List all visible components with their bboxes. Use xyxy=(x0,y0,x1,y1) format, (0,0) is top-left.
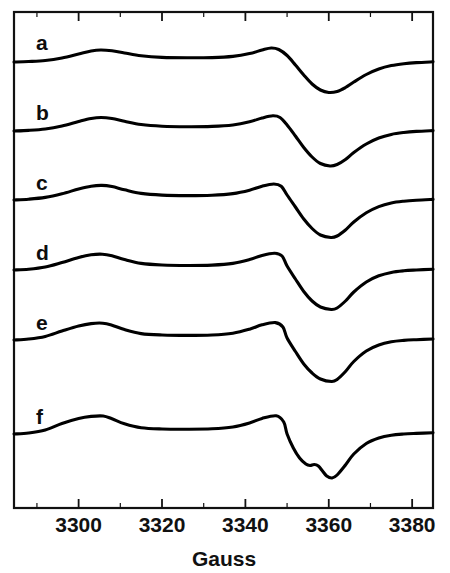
trace-label-b: b xyxy=(36,101,49,124)
trace-label-c: c xyxy=(36,171,48,194)
x-tick-label-3300: 3300 xyxy=(55,513,102,536)
plot-frame xyxy=(14,12,433,508)
spectra-traces xyxy=(14,48,433,478)
x-axis-tick-labels: 33003320334033603380 xyxy=(55,513,435,536)
epr-figure: a b c d e f 33003320334033603380 Gauss xyxy=(0,0,450,573)
trace-label-e: e xyxy=(36,311,48,334)
spectrum-trace-a xyxy=(14,48,433,93)
x-tick-label-3340: 3340 xyxy=(222,513,269,536)
spectrum-trace-e xyxy=(14,323,433,382)
spectrum-trace-f xyxy=(14,416,433,478)
plot-border xyxy=(14,12,433,508)
x-tick-label-3360: 3360 xyxy=(305,513,352,536)
spectrum-trace-b xyxy=(14,116,433,166)
x-axis-ticks xyxy=(37,12,412,508)
x-tick-label-3320: 3320 xyxy=(139,513,186,536)
trace-label-f: f xyxy=(36,405,44,428)
epr-spectra-plot: a b c d e f 33003320334033603380 Gauss xyxy=(0,0,450,573)
trace-label-a: a xyxy=(36,31,48,54)
trace-labels: a b c d e f xyxy=(36,31,49,428)
x-tick-label-3380: 3380 xyxy=(389,513,436,536)
spectrum-trace-d xyxy=(14,253,433,309)
x-axis-title: Gauss xyxy=(192,547,256,570)
trace-label-d: d xyxy=(36,241,49,264)
spectrum-trace-c xyxy=(14,184,433,238)
